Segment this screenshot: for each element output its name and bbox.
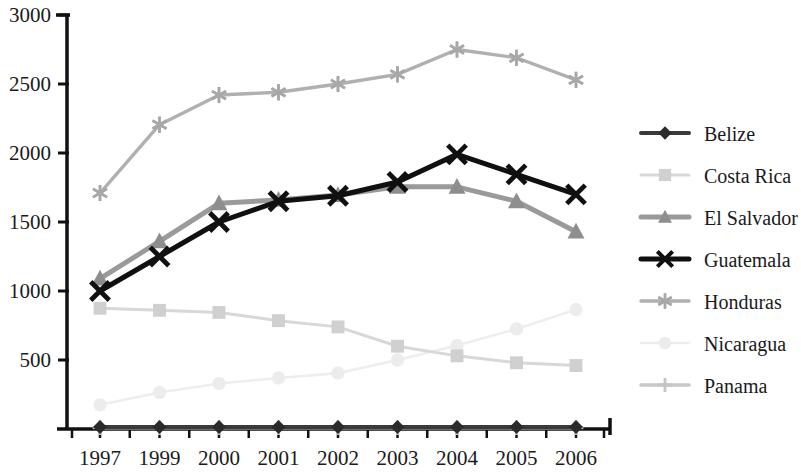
legend-item-costa-rica[interactable]: Costa Rica [641, 165, 791, 187]
legend-label: Panama [704, 375, 767, 397]
chart-container: 5001000150020002500300019971999200020012… [0, 0, 801, 474]
marker-diamond [272, 420, 286, 434]
series-guatemala [91, 145, 586, 300]
marker-circle [391, 353, 404, 366]
marker-square [659, 169, 671, 181]
marker-circle [153, 386, 166, 399]
x-tick-group: 199719992000200120022003200420052006 [72, 429, 604, 470]
x-tick-label: 1999 [139, 446, 181, 470]
marker-square [272, 314, 285, 327]
marker-diamond [331, 420, 345, 434]
marker-circle [93, 398, 106, 411]
marker-diamond [450, 420, 464, 434]
x-tick-label: 2000 [198, 446, 240, 470]
legend-label: El Salvador [704, 207, 798, 229]
marker-diamond [658, 126, 671, 139]
marker-square [213, 306, 226, 319]
marker-square [510, 356, 523, 369]
x-tick-label: 2005 [496, 446, 538, 470]
marker-circle [272, 371, 285, 384]
marker-square [94, 302, 107, 315]
x-tick-label: 2003 [377, 446, 419, 470]
legend-label: Belize [704, 123, 755, 145]
legend-item-panama[interactable]: Panama [641, 375, 767, 397]
marker-square [153, 304, 166, 317]
legend-item-honduras[interactable]: Honduras [641, 291, 782, 313]
y-tick-label: 2000 [9, 141, 51, 165]
marker-diamond [510, 420, 524, 434]
marker-diamond [391, 420, 405, 434]
marker-diamond [212, 420, 226, 434]
y-tick-label: 500 [20, 348, 52, 372]
marker-square [451, 349, 464, 362]
series-honduras [93, 41, 583, 201]
marker-diamond [153, 420, 167, 434]
marker-circle [212, 377, 225, 390]
series-costa-rica [94, 302, 583, 372]
series-belize [93, 420, 583, 434]
legend-label: Costa Rica [704, 165, 791, 187]
y-tick-label: 3000 [9, 3, 51, 27]
marker-diamond [93, 420, 107, 434]
legend-label: Nicaragua [704, 333, 786, 356]
x-tick-label: 2002 [317, 446, 359, 470]
series-line [100, 308, 576, 365]
legend-item-guatemala[interactable]: Guatemala [641, 249, 791, 271]
line-chart: 5001000150020002500300019971999200020012… [0, 0, 801, 474]
marker-diamond [569, 420, 583, 434]
series-line [100, 154, 576, 291]
marker-circle [659, 337, 672, 350]
marker-square [570, 359, 583, 372]
x-tick-label: 2001 [258, 446, 300, 470]
marker-square [332, 320, 345, 333]
x-tick-label: 2006 [555, 446, 597, 470]
legend-item-nicaragua[interactable]: Nicaragua [641, 333, 786, 356]
marker-circle [331, 366, 344, 379]
marker-circle [510, 322, 523, 335]
x-tick-label: 2004 [436, 446, 479, 470]
legend-item-belize[interactable]: Belize [641, 123, 755, 145]
legend-label: Guatemala [704, 249, 791, 271]
legend-item-el-salvador[interactable]: El Salvador [641, 207, 798, 229]
y-tick-group: 50010001500200025003000 [9, 3, 69, 372]
legend: BelizeCosta RicaEl SalvadorGuatemalaHond… [641, 123, 798, 397]
x-tick-label: 1997 [79, 446, 121, 470]
y-tick-label: 2500 [9, 72, 51, 96]
y-tick-label: 1500 [9, 210, 51, 234]
legend-label: Honduras [704, 291, 782, 313]
chart-canvas: 5001000150020002500300019971999200020012… [0, 0, 801, 474]
series-nicaragua [93, 303, 582, 412]
y-tick-label: 1000 [9, 279, 51, 303]
marker-square [391, 340, 404, 353]
marker-circle [569, 303, 582, 316]
